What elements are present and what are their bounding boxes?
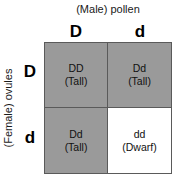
column-header-allele-0: D	[44, 22, 108, 42]
punnett-square-figure: (Male) pollen (Female) ovules D d D d DD…	[0, 0, 177, 181]
row-header-allele-0: D	[18, 62, 42, 82]
cell-genotype: Dd	[69, 128, 82, 141]
row-header-allele-1: d	[18, 128, 42, 148]
punnett-cell-1-1: dd (Dwarf)	[108, 108, 171, 173]
punnett-grid: DD (Tall) Dd (Tall) Dd (Tall) dd (Dwarf)	[44, 42, 172, 174]
cell-genotype: Dd	[133, 62, 146, 75]
cell-genotype: dd	[134, 128, 146, 141]
cell-phenotype: (Tall)	[65, 141, 88, 154]
left-axis-title: (Female) ovules	[1, 69, 15, 148]
cell-phenotype: (Tall)	[128, 75, 151, 88]
cell-genotype: DD	[68, 62, 83, 75]
column-header-allele-1: d	[108, 22, 172, 42]
cell-phenotype: (Dwarf)	[122, 141, 156, 154]
punnett-cell-0-1: Dd (Tall)	[108, 43, 171, 108]
top-axis-title: (Male) pollen	[44, 2, 172, 16]
punnett-cell-1-0: Dd (Tall)	[45, 108, 108, 173]
left-axis-title-container: (Female) ovules	[0, 42, 16, 174]
cell-phenotype: (Tall)	[65, 75, 88, 88]
punnett-cell-0-0: DD (Tall)	[45, 43, 108, 108]
